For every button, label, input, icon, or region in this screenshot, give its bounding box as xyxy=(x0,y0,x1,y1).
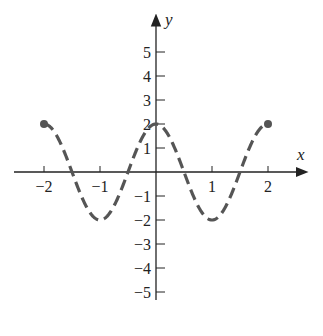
x-tick-label: 2 xyxy=(264,178,272,195)
y-tick-label: 3 xyxy=(143,92,151,109)
endpoint-dot xyxy=(264,120,272,128)
y-tick-label: 2 xyxy=(143,116,151,133)
x-axis-label: x xyxy=(296,145,305,164)
y-tick-label: −2 xyxy=(134,212,151,229)
x-tick-label: −2 xyxy=(35,178,52,195)
x-tick-label: −1 xyxy=(91,178,108,195)
y-axis-label: y xyxy=(163,10,173,29)
axes: xy−2−11254321−1−2−3−4−5 xyxy=(14,10,305,301)
x-tick-label: 1 xyxy=(208,178,216,195)
y-tick-label: −5 xyxy=(134,284,151,301)
y-tick-label: −1 xyxy=(134,188,151,205)
y-tick-label: 1 xyxy=(143,140,151,157)
endpoint-dot xyxy=(40,120,48,128)
y-tick-label: −4 xyxy=(134,260,151,277)
y-tick-label: 4 xyxy=(143,68,151,85)
y-tick-label: 5 xyxy=(143,44,151,61)
cosine-graph: xy−2−11254321−1−2−3−4−5 xyxy=(0,0,323,336)
y-tick-label: −3 xyxy=(134,236,151,253)
